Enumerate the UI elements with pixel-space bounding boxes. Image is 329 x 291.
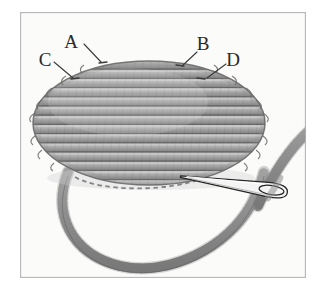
embroidery-diagram-svg: A B C D (0, 0, 329, 291)
label-d: D (226, 49, 240, 70)
figure-root: A B C D (0, 0, 329, 291)
label-b: B (197, 33, 210, 54)
label-c: C (39, 49, 52, 70)
label-a: A (64, 31, 78, 52)
